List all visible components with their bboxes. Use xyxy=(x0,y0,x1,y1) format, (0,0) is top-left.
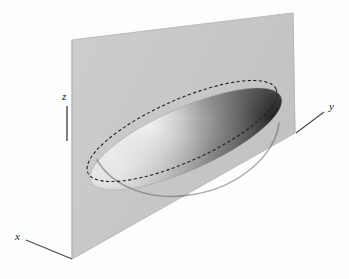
axis-x: x xyxy=(14,230,72,259)
axis-y: y xyxy=(296,100,334,133)
figure-container: z y x xyxy=(0,0,349,279)
axis-z: z xyxy=(61,90,67,141)
axis-x-label: x xyxy=(14,230,20,242)
axis-y-label: y xyxy=(328,100,334,112)
axis-z-label: z xyxy=(61,90,67,102)
axis-y-line xyxy=(296,112,324,133)
axis-x-line xyxy=(26,240,72,259)
figure-canvas: z y x xyxy=(0,0,349,279)
